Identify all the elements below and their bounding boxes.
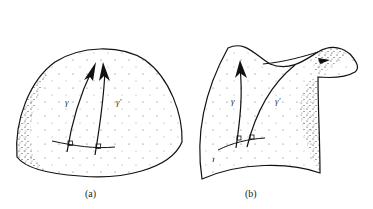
dome-outline [17, 49, 182, 177]
label-gamma-a: γ [65, 97, 69, 107]
label-gamma-prime-b: γ′ [275, 96, 281, 106]
figure: γ γ′ γ γ′ (a) (b) [0, 0, 373, 209]
panel-a-dome [17, 49, 182, 177]
saddle-outline [200, 46, 358, 179]
label-gamma-b: γ [231, 96, 235, 106]
label-gamma-prime-a: γ′ [116, 97, 122, 107]
caption-b: (b) [245, 188, 257, 199]
caption-a: (a) [85, 188, 96, 199]
diagram-canvas [0, 0, 373, 209]
panel-b-saddle [200, 46, 358, 179]
